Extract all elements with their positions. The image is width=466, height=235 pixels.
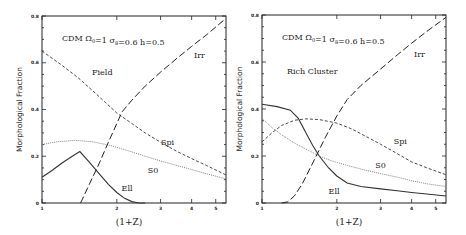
y-axis-label: Morphological Fraction xyxy=(235,66,244,151)
curve-label-spi: Spi xyxy=(394,137,408,146)
curve-label-ell: Ell xyxy=(329,187,340,196)
x-tick-label: 4 xyxy=(190,206,193,211)
model-params-label: CDM Ω0=1 σ8=0.6 h=0.5 xyxy=(62,34,165,47)
x-tick-label: 5 xyxy=(214,206,217,211)
y-tick-label: 0.4 xyxy=(31,107,39,112)
y-tick-label: 0.2 xyxy=(31,154,39,159)
y-tick-label: 0.2 xyxy=(251,154,259,159)
figure: 00.20.40.60.812345EllS0SpiIrrCDM Ω0=1 σ8… xyxy=(0,0,466,235)
morphology-chart: 00.20.40.60.812345EllS0SpiIrrCDM Ω0=1 σ8… xyxy=(0,0,466,235)
curve-s0 xyxy=(42,140,226,179)
y-tick-label: 0 xyxy=(36,201,39,206)
x-tick-label: 2 xyxy=(115,206,118,211)
x-tick-label: 1 xyxy=(260,206,263,211)
y-tick-label: 0.6 xyxy=(31,60,39,65)
y-axis-label: Morphological Fraction xyxy=(15,67,24,152)
x-tick-label: 4 xyxy=(410,206,413,211)
x-tick-label: 1 xyxy=(40,206,43,211)
x-tick-label: 3 xyxy=(159,206,162,211)
model-params-label: CDM Ω0=1 σ8=0.6 h=0.5 xyxy=(282,33,385,46)
curve-spi xyxy=(42,51,226,175)
environment-label: Field xyxy=(92,68,113,77)
panel-right: 00.20.40.60.812345EllS0SpiIrrCDM Ω0=1 σ8… xyxy=(235,13,446,227)
y-tick-label: 0.8 xyxy=(31,14,39,19)
curve-label-s0: S0 xyxy=(148,166,159,175)
curve-ell xyxy=(262,104,446,196)
y-tick-label: 0.4 xyxy=(251,107,259,112)
y-tick-label: 0 xyxy=(256,201,259,206)
x-axis-label: (1+Z) xyxy=(336,217,363,227)
y-tick-label: 0.8 xyxy=(251,13,259,18)
x-tick-label: 2 xyxy=(335,206,338,211)
curve-label-spi: Spi xyxy=(161,138,175,147)
x-tick-label: 5 xyxy=(434,206,437,211)
curve-ell xyxy=(42,152,145,203)
curve-label-s0: S0 xyxy=(375,161,386,170)
x-tick-label: 3 xyxy=(379,206,382,211)
panel-left: 00.20.40.60.812345EllS0SpiIrrCDM Ω0=1 σ8… xyxy=(15,14,226,227)
curve-label-ell: Ell xyxy=(122,184,133,193)
curve-spi xyxy=(262,119,446,175)
curve-label-irr: Irr xyxy=(414,50,425,59)
curve-label-irr: Irr xyxy=(194,51,205,60)
curve-s0 xyxy=(262,118,446,186)
environment-label: Rich Cluster xyxy=(287,67,338,76)
x-axis-label: (1+Z) xyxy=(116,217,143,227)
y-tick-label: 0.6 xyxy=(251,60,259,65)
